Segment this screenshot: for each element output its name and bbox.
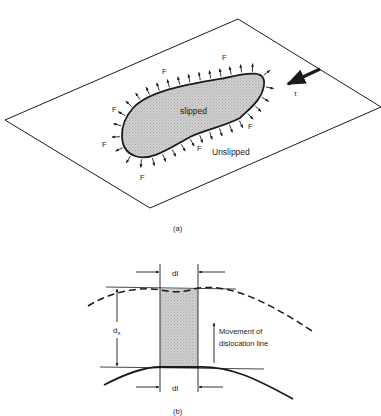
force-arrow — [157, 83, 160, 91]
force-arrow — [118, 112, 125, 116]
force-label: F — [248, 122, 253, 131]
force-arrow — [200, 135, 203, 142]
force-arrow — [199, 72, 200, 80]
slipped-label: slipped — [180, 106, 207, 116]
force-arrow — [248, 113, 253, 119]
dislocation-line-original — [104, 367, 293, 399]
force-arrow — [152, 158, 154, 166]
swept-area — [160, 289, 198, 367]
force-arrow — [167, 80, 169, 88]
force-arrow — [188, 74, 190, 82]
force-arrow — [240, 65, 241, 73]
force-arrow — [172, 149, 176, 156]
shear-stress-arrow — [288, 69, 320, 84]
force-arrow — [116, 148, 123, 151]
force-arrow — [146, 87, 149, 94]
dx-label: dx — [113, 326, 120, 336]
figure-b: dl dl dx Movement of dislocation line (b… — [88, 264, 312, 416]
force-arrow — [220, 128, 223, 136]
force-arrow — [230, 125, 233, 132]
movement-label-line1: Movement of — [219, 327, 263, 336]
force-arrow — [239, 121, 243, 128]
caption-b: (b) — [173, 407, 183, 416]
dl-label-bottom: dl — [172, 384, 178, 393]
movement-label-line2: dislocation line — [219, 339, 268, 348]
dx-subscript: x — [117, 330, 120, 336]
shear-stress-label: τ — [294, 90, 297, 97]
force-label: F — [112, 105, 117, 114]
force-arrow — [266, 87, 274, 89]
caption-a: (a) — [173, 224, 183, 233]
force-label: F — [102, 140, 107, 149]
force-arrow — [209, 71, 210, 79]
unslipped-label: Unslipped — [212, 147, 250, 157]
force-arrow — [163, 154, 166, 161]
force-arrow — [190, 139, 194, 146]
force-arrow — [126, 101, 132, 107]
force-arrow — [262, 97, 269, 101]
force-label: F — [197, 144, 202, 153]
figure-a: slipped Unslipped F F F F F F F τ (a) — [5, 19, 381, 233]
force-arrow — [181, 144, 185, 151]
dislocation-diagram: slipped Unslipped F F F F F F F τ (a) dl… — [0, 0, 381, 416]
force-arrow — [255, 106, 261, 111]
force-arrow — [229, 67, 231, 75]
force-arrow — [264, 70, 270, 75]
force-label: F — [140, 173, 145, 182]
force-arrow — [210, 132, 213, 140]
force-label: F — [222, 53, 227, 62]
force-label: F — [162, 67, 167, 76]
force-arrow — [126, 156, 130, 163]
force-arrow — [178, 77, 180, 85]
force-arrow — [136, 93, 140, 100]
dl-label-top: dl — [172, 269, 178, 278]
force-arrow — [114, 124, 122, 126]
force-arrow — [220, 69, 221, 77]
dislocation-line-new — [88, 287, 312, 331]
force-arrow — [141, 159, 142, 167]
